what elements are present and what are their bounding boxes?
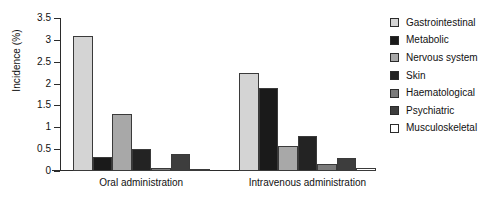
legend-swatch-icon xyxy=(390,89,399,98)
legend-label: Haematological xyxy=(406,88,475,98)
bar xyxy=(239,73,259,171)
legend-swatch-icon xyxy=(390,124,399,133)
y-tick-mark xyxy=(54,62,60,63)
y-tick-mark xyxy=(54,149,60,150)
x-axis-group-label: Intravenous administration xyxy=(249,177,366,188)
legend-item: Haematological xyxy=(390,84,502,102)
bar xyxy=(259,88,279,171)
legend-swatch-icon xyxy=(390,36,399,45)
plot-area: 00.511.522.533.5 xyxy=(60,18,372,171)
y-tick-mark xyxy=(54,84,60,85)
y-tick-mark xyxy=(54,40,60,41)
bar xyxy=(93,157,113,171)
y-tick-label: 3 xyxy=(45,35,51,45)
legend-item: Skin xyxy=(390,67,502,85)
bar xyxy=(171,154,191,171)
y-tick-label: 0.5 xyxy=(37,144,51,154)
bar xyxy=(298,136,318,171)
y-tick-label: 0 xyxy=(45,166,51,176)
y-tick-label: 2.5 xyxy=(37,57,51,67)
bar xyxy=(132,149,152,171)
y-tick-label: 1 xyxy=(45,122,51,132)
legend-label: Nervous system xyxy=(406,53,478,63)
y-tick-label: 1.5 xyxy=(37,100,51,110)
legend-swatch-icon xyxy=(390,71,399,80)
legend-label: Psychiatric xyxy=(406,106,454,116)
bar xyxy=(356,168,376,171)
legend-item: Psychiatric xyxy=(390,102,502,120)
bar xyxy=(278,146,298,171)
bar xyxy=(73,36,93,172)
legend-swatch-icon xyxy=(390,53,399,62)
chart-legend: GastrointestinalMetabolicNervous systemS… xyxy=(390,14,502,137)
bar xyxy=(337,158,357,171)
legend-label: Skin xyxy=(406,71,425,81)
legend-swatch-icon xyxy=(390,106,399,115)
y-tick-label: 3.5 xyxy=(37,13,51,23)
legend-item: Gastrointestinal xyxy=(390,14,502,32)
bar xyxy=(112,114,132,171)
legend-swatch-icon xyxy=(390,18,399,27)
y-tick-mark xyxy=(54,127,60,128)
bar-series-container xyxy=(61,18,372,171)
bar xyxy=(151,168,171,171)
y-tick-mark xyxy=(54,18,60,19)
legend-item: Musculoskeletal xyxy=(390,120,502,138)
legend-item: Nervous system xyxy=(390,49,502,67)
chart-figure: Incidence (%) 00.511.522.533.5 Oral admi… xyxy=(0,0,502,204)
x-axis-group-label: Oral administration xyxy=(99,177,183,188)
y-tick-label: 2 xyxy=(45,79,51,89)
bar xyxy=(317,164,337,171)
legend-label: Gastrointestinal xyxy=(406,18,475,28)
legend-label: Musculoskeletal xyxy=(406,123,477,133)
y-axis-title: Incidence (%) xyxy=(11,1,22,121)
y-tick-mark xyxy=(54,105,60,106)
legend-item: Metabolic xyxy=(390,32,502,50)
y-tick-mark xyxy=(54,171,60,172)
bar xyxy=(190,169,210,171)
legend-label: Metabolic xyxy=(406,35,449,45)
